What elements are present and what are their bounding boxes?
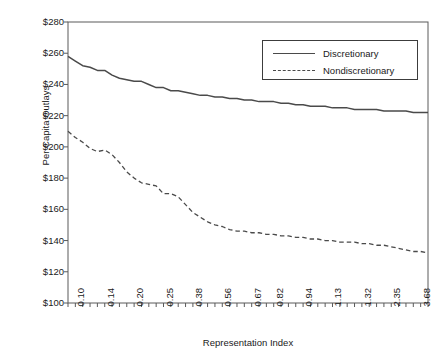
x-tick-label: 1.32 [362,288,373,324]
x-tick-label: 2.35 [391,288,402,324]
dashed-line-swatch [273,65,315,75]
x-tick-label: 3.68 [421,288,432,324]
chart-figure: Per Capita Outlays Representation Index … [0,0,437,355]
legend-label-discretionary: Discretionary [323,48,378,59]
x-tick-label: 0.67 [252,288,263,324]
x-tick-label: 0.25 [164,288,175,324]
solid-line-swatch [273,48,315,58]
x-tick-label: 0.94 [303,288,314,324]
x-tick-label: 0.10 [75,288,86,324]
x-tick-label: 0.82 [274,288,285,324]
chart-legend: Discretionary Nondiscretionary [262,40,418,80]
x-tick-label: 1.13 [332,288,343,324]
x-tick-label: 0.20 [134,288,145,324]
x-tick-label: 0.14 [105,288,116,324]
x-tick-label: 0.38 [193,288,204,324]
legend-item-nondiscretionary: Nondiscretionary [263,61,419,79]
x-tick-label: 0.56 [222,288,233,324]
legend-label-nondiscretionary: Nondiscretionary [323,65,394,76]
legend-item-discretionary: Discretionary [263,44,419,62]
